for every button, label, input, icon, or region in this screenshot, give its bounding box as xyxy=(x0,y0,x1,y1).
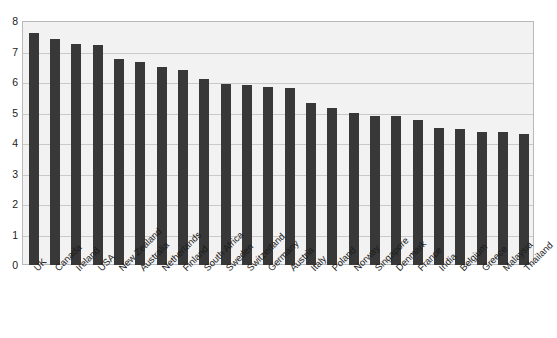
y-tick-label: 4 xyxy=(12,138,18,149)
y-tick-label: 6 xyxy=(12,77,18,88)
bar xyxy=(114,59,124,265)
bar xyxy=(349,113,359,266)
y-tick-label: 2 xyxy=(12,199,18,210)
bar-chart-figure: 876543210 UKCanadaIrelandUSANew ZealandA… xyxy=(0,0,557,338)
y-tick-label: 5 xyxy=(12,107,18,118)
bar xyxy=(327,108,337,265)
y-tick-label: 0 xyxy=(12,260,18,271)
bar xyxy=(50,39,60,265)
y-axis: 876543210 xyxy=(0,21,18,265)
bar xyxy=(71,44,81,265)
bar xyxy=(306,103,316,265)
bar xyxy=(29,33,39,265)
bar xyxy=(135,62,145,265)
bar xyxy=(178,70,188,265)
y-tick-label: 1 xyxy=(12,229,18,240)
bars-layer xyxy=(22,21,534,265)
y-tick-label: 3 xyxy=(12,168,18,179)
y-tick-label: 8 xyxy=(12,16,18,27)
bar xyxy=(455,129,465,265)
bar xyxy=(93,45,103,265)
y-tick-label: 7 xyxy=(12,46,18,57)
x-axis: UKCanadaIrelandUSANew ZealandAustraliaNe… xyxy=(22,266,534,338)
